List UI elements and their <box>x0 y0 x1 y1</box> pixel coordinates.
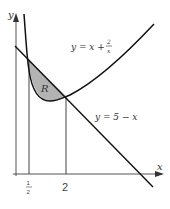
line-label: y = 5 − x <box>94 112 137 122</box>
curve-label-den: x <box>107 47 111 54</box>
region-label: R <box>40 83 49 94</box>
graph: y x y = x + 2 x y = 5 − x R 1 2 2 <box>0 0 170 209</box>
x-axis-label: x <box>157 161 163 172</box>
tick-half-den: 2 <box>27 189 31 195</box>
tick-two: 2 <box>62 181 68 193</box>
curve-label: y = x + <box>70 42 105 52</box>
curve-label-num: 2 <box>106 38 111 45</box>
y-axis-arrow <box>13 13 19 22</box>
tick-half-num: 1 <box>27 180 31 186</box>
y-axis-label: y <box>7 9 14 20</box>
